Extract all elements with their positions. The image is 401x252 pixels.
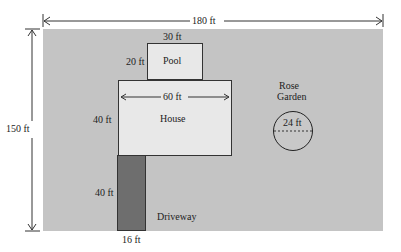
driveway-width-label: 16 ft [122, 234, 141, 246]
lot-width-label: 180 ft [192, 15, 216, 27]
driveway-label: Driveway [157, 211, 196, 223]
house-height-label: 40 ft [93, 114, 112, 126]
pool-width-label: 30 ft [163, 31, 182, 43]
lot-height-label: 150 ft [6, 123, 30, 135]
house-width-label: 60 ft [163, 91, 182, 103]
pool-height-label: 20 ft [126, 56, 145, 68]
house-label: House [160, 113, 186, 125]
pool-label: Pool [163, 55, 181, 67]
dimension-lines [0, 0, 401, 252]
rose-garden-label-line2: Garden [277, 91, 306, 103]
driveway-height-label: 40 ft [95, 187, 114, 199]
rose-garden-diameter-label: 24 ft [283, 117, 302, 129]
